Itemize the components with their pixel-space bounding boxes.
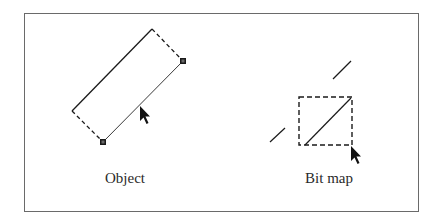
object-edge-dashed-top xyxy=(152,29,183,61)
bitmap-line-fragment-upper xyxy=(333,61,351,79)
object-edge-dashed-bottom xyxy=(72,111,103,142)
object-selected-line[interactable] xyxy=(103,61,183,142)
object-caption: Object xyxy=(105,170,145,187)
object-panel xyxy=(72,29,186,145)
arrow-cursor-icon xyxy=(140,106,150,124)
bitmap-line-inside-selection xyxy=(305,98,351,145)
bitmap-caption: Bit map xyxy=(305,170,353,187)
bitmap-panel xyxy=(270,61,361,164)
arrow-cursor-icon xyxy=(351,146,361,164)
bitmap-line-fragment-lower xyxy=(270,128,285,142)
object-edge-solid xyxy=(72,29,152,111)
diagram-canvas xyxy=(0,0,442,224)
bitmap-marquee-selection[interactable] xyxy=(299,97,352,145)
